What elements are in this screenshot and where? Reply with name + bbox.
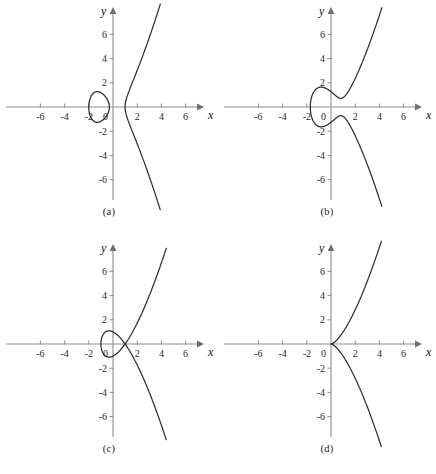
svg-text:x: x	[207, 108, 214, 122]
svg-text:-4: -4	[60, 111, 68, 122]
plot-svg: -6-4-2246642-2-4-60xy	[0, 0, 218, 210]
svg-text:6: 6	[102, 266, 107, 277]
panel-a: -6-4-2246642-2-4-60xy (a)	[0, 0, 218, 237]
svg-text:-2: -2	[303, 348, 311, 359]
svg-text:4: 4	[102, 290, 107, 301]
svg-text:-6: -6	[317, 174, 325, 185]
svg-text:2: 2	[102, 77, 107, 88]
svg-text:4: 4	[320, 290, 325, 301]
svg-text:-6: -6	[254, 348, 262, 359]
svg-text:-4: -4	[60, 348, 68, 359]
svg-text:-2: -2	[85, 348, 93, 359]
svg-text:6: 6	[102, 29, 107, 40]
svg-text:x: x	[425, 108, 432, 122]
svg-text:2: 2	[102, 314, 107, 325]
svg-text:0: 0	[321, 111, 326, 122]
svg-text:4: 4	[159, 348, 164, 359]
svg-text:x: x	[207, 345, 214, 359]
svg-text:6: 6	[320, 29, 325, 40]
svg-text:-2: -2	[99, 126, 107, 137]
svg-text:0: 0	[321, 348, 326, 359]
svg-text:-6: -6	[254, 111, 262, 122]
panel-b-caption: (b)	[218, 206, 436, 217]
svg-text:-6: -6	[36, 348, 44, 359]
svg-text:4: 4	[159, 111, 164, 122]
elliptic-curve-figure: -6-4-2246642-2-4-60xy (a) -6-4-2246642-2…	[0, 0, 436, 474]
svg-text:2: 2	[135, 348, 140, 359]
svg-text:-4: -4	[99, 150, 107, 161]
panel-d-plot: -6-4-2246642-2-4-60xy	[218, 237, 436, 447]
svg-text:-2: -2	[99, 363, 107, 374]
svg-text:4: 4	[377, 348, 382, 359]
plot-svg: -6-4-2246642-2-4-60xy	[218, 0, 436, 210]
panel-c-plot: -6-4-2246642-2-4-60xy	[0, 237, 218, 447]
svg-text:4: 4	[320, 53, 325, 64]
plot-svg: -6-4-2246642-2-4-60xy	[218, 237, 436, 447]
plot-svg: -6-4-2246642-2-4-60xy	[0, 237, 218, 447]
svg-text:-6: -6	[99, 411, 107, 422]
svg-text:4: 4	[102, 53, 107, 64]
panel-a-plot: -6-4-2246642-2-4-60xy	[0, 0, 218, 210]
panel-d-caption: (d)	[218, 443, 436, 454]
panel-b-plot: -6-4-2246642-2-4-60xy	[218, 0, 436, 210]
svg-text:-4: -4	[278, 111, 286, 122]
panel-a-caption: (a)	[0, 206, 218, 217]
svg-text:-6: -6	[317, 411, 325, 422]
svg-text:-4: -4	[278, 348, 286, 359]
svg-text:6: 6	[401, 348, 406, 359]
svg-text:4: 4	[377, 111, 382, 122]
panel-c-caption: (c)	[0, 443, 218, 454]
svg-text:6: 6	[401, 111, 406, 122]
svg-text:y: y	[318, 241, 325, 255]
svg-text:2: 2	[320, 314, 325, 325]
svg-text:-2: -2	[317, 363, 325, 374]
svg-text:-2: -2	[303, 111, 311, 122]
svg-text:2: 2	[135, 111, 140, 122]
svg-text:2: 2	[353, 348, 358, 359]
svg-text:y: y	[100, 241, 107, 255]
svg-text:y: y	[318, 4, 325, 18]
svg-text:6: 6	[183, 111, 188, 122]
svg-text:2: 2	[353, 111, 358, 122]
svg-text:-4: -4	[99, 387, 107, 398]
panel-d: -6-4-2246642-2-4-60xy (d)	[218, 237, 436, 474]
svg-text:y: y	[100, 4, 107, 18]
panel-b: -6-4-2246642-2-4-60xy (b)	[218, 0, 436, 237]
svg-text:6: 6	[183, 348, 188, 359]
svg-text:6: 6	[320, 266, 325, 277]
svg-text:x: x	[425, 345, 432, 359]
panel-c: -6-4-2246642-2-4-60xy (c)	[0, 237, 218, 474]
svg-text:-6: -6	[36, 111, 44, 122]
svg-text:-4: -4	[317, 150, 325, 161]
svg-text:-6: -6	[99, 174, 107, 185]
svg-text:-4: -4	[317, 387, 325, 398]
